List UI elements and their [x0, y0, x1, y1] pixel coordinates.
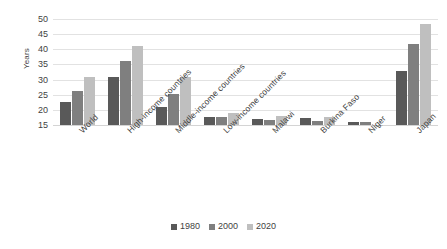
bar [72, 91, 83, 125]
legend-item[interactable]: 2000 [209, 222, 238, 231]
y-tick-label: 50 [38, 15, 48, 24]
bar [252, 119, 263, 125]
x-axis-category-labels: WorldHigh-income countriesMiddle-income … [53, 126, 438, 196]
bar [348, 122, 359, 125]
legend-swatch-icon [209, 224, 215, 230]
x-axis-label-slot: Burkina Faso [294, 126, 342, 196]
x-axis-label-slot: Malawi [246, 126, 294, 196]
bar [168, 94, 179, 125]
y-tick-label: 40 [38, 45, 48, 54]
legend-item[interactable]: 1980 [171, 222, 200, 231]
x-axis-label-slot: Japan [390, 126, 438, 196]
bar [60, 102, 71, 125]
bar-group [53, 19, 101, 125]
y-tick-label: 35 [38, 60, 48, 69]
bar [120, 61, 131, 125]
legend-label: 1980 [180, 222, 200, 231]
bar [108, 77, 119, 125]
y-axis-title: Years [22, 39, 31, 79]
chart-legend: 198020002020 [0, 222, 447, 231]
y-tick-label: 20 [38, 105, 48, 114]
legend-swatch-icon [247, 224, 253, 230]
legend-swatch-icon [171, 224, 177, 230]
bar [408, 44, 419, 125]
x-axis-label-slot: High-income countries [101, 126, 149, 196]
y-tick-label: 25 [38, 90, 48, 99]
bar [396, 71, 407, 125]
legend-label: 2020 [256, 222, 276, 231]
x-axis-label-slot: Middle-income countries [149, 126, 197, 196]
bar [300, 118, 311, 125]
bar [204, 117, 215, 125]
x-axis-label-slot: Low-income countries [197, 126, 245, 196]
bar [156, 107, 167, 125]
y-tick-label: 30 [38, 75, 48, 84]
y-tick-label: 15 [38, 121, 48, 130]
x-axis-label-slot: World [53, 126, 101, 196]
bar-group [294, 19, 342, 125]
bar-chart: Years 1520253035404550 WorldHigh-income … [0, 0, 447, 249]
legend-item[interactable]: 2020 [247, 222, 276, 231]
y-tick-label: 45 [38, 30, 48, 39]
bar [420, 24, 431, 125]
x-axis-label-slot: Niger [342, 126, 390, 196]
legend-label: 2000 [218, 222, 238, 231]
bar-group [390, 19, 438, 125]
